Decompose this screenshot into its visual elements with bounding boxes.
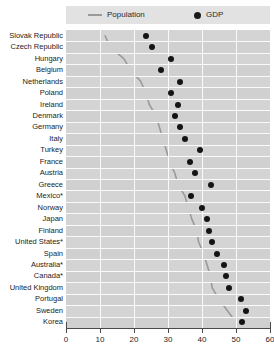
- x-axis-tick: [202, 329, 203, 333]
- y-axis-label-mexico: Mexico*: [0, 192, 63, 200]
- y-axis-label-turkey: Turkey: [0, 146, 63, 154]
- gdp-data-point: [143, 33, 149, 39]
- gdp-data-point: [208, 182, 214, 188]
- vertical-gridline: [202, 30, 203, 328]
- x-axis-tick-label: 40: [198, 336, 207, 344]
- vertical-gridline: [100, 30, 101, 328]
- x-axis-tick-label: 10: [96, 336, 105, 344]
- gdp-data-point: [243, 308, 249, 314]
- gdp-data-point: [168, 56, 174, 62]
- gdp-data-point: [221, 262, 227, 268]
- x-axis-tick: [66, 329, 67, 333]
- y-axis-label-netherlands: Netherlands: [0, 78, 63, 86]
- y-axis-category-labels: Slovak RepublicCzech RepublicHungaryBelg…: [0, 30, 63, 328]
- y-axis-label-spain: Spain: [0, 250, 63, 258]
- gdp-data-point: [206, 228, 212, 234]
- vertical-gridline: [236, 30, 237, 328]
- x-axis-tick: [100, 329, 101, 333]
- y-axis-label-norway: Norway: [0, 204, 63, 212]
- x-axis-tick: [270, 329, 271, 333]
- x-axis-tick: [134, 329, 135, 333]
- dot-marker-icon: [194, 12, 201, 19]
- gdp-data-point: [199, 205, 205, 211]
- gdp-data-point: [177, 79, 183, 85]
- legend-item-gdp: GDP: [194, 6, 223, 24]
- legend-item-population: Population: [88, 6, 145, 24]
- y-axis-label-czech-republic: Czech Republic: [0, 43, 63, 51]
- y-axis-label-denmark: Denmark: [0, 112, 63, 120]
- vertical-gridline: [134, 30, 135, 328]
- y-axis-label-canada: Canada*: [0, 272, 63, 280]
- y-axis-label-united-kingdom: United Kingdom: [0, 284, 63, 292]
- y-axis-label-hungary: Hungary: [0, 55, 63, 63]
- y-axis-label-united-states: United States*: [0, 238, 63, 246]
- gdp-data-point: [158, 67, 164, 73]
- x-axis-tick-label: 50: [232, 336, 241, 344]
- y-axis-label-greece: Greece: [0, 181, 63, 189]
- line-marker-icon: [88, 14, 102, 16]
- y-axis-label-finland: Finland: [0, 227, 63, 235]
- y-axis-label-slovak-republic: Slovak Republic: [0, 32, 63, 40]
- population-gdp-chart: Population GDP Slovak RepublicCzech Repu…: [0, 0, 274, 357]
- x-axis-tick-label: 60: [266, 336, 274, 344]
- y-axis-label-germany: Germany: [0, 123, 63, 131]
- gdp-data-point: [175, 102, 181, 108]
- x-axis-tick: [168, 329, 169, 333]
- y-axis-label-sweden: Sweden: [0, 307, 63, 315]
- vertical-gridline: [168, 30, 169, 328]
- y-axis-label-australia: Australia*: [0, 261, 63, 269]
- chart-legend: Population GDP: [66, 6, 270, 24]
- legend-label-gdp: GDP: [206, 11, 223, 19]
- gdp-data-point: [214, 251, 220, 257]
- gdp-data-point: [172, 113, 178, 119]
- y-axis-label-japan: Japan: [0, 215, 63, 223]
- plot-area: [66, 30, 270, 328]
- x-axis-tick: [236, 329, 237, 333]
- x-axis-tick-label: 0: [64, 336, 68, 344]
- y-axis-label-ireland: Ireland: [0, 101, 63, 109]
- y-axis-label-korea: Korea: [0, 318, 63, 326]
- y-axis-label-austria: Austria: [0, 169, 63, 177]
- y-axis-label-italy: Italy: [0, 135, 63, 143]
- y-axis-label-france: France: [0, 158, 63, 166]
- x-axis-tick-label: 30: [164, 336, 173, 344]
- y-axis-label-poland: Poland: [0, 89, 63, 97]
- gdp-data-point: [182, 136, 188, 142]
- gdp-data-point: [187, 159, 193, 165]
- y-axis-label-portugal: Portugal: [0, 295, 63, 303]
- x-axis-tick-label: 20: [130, 336, 139, 344]
- y-axis-label-belgium: Belgium: [0, 66, 63, 74]
- x-axis-end-cap: [270, 322, 271, 329]
- legend-label-population: Population: [107, 11, 145, 19]
